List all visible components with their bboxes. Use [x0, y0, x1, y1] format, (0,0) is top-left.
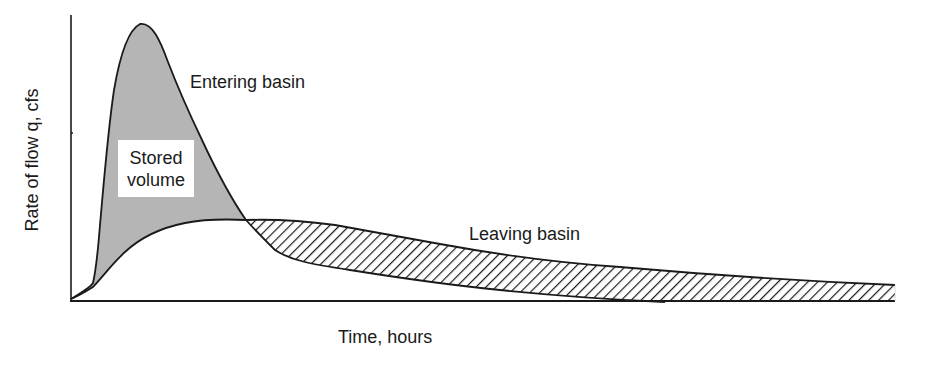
stored-volume-label-line2: volume: [127, 169, 185, 191]
y-axis-label: Rate of flow q, cfs: [22, 88, 43, 231]
x-axis-label: Time, hours: [338, 328, 432, 346]
stored-volume-label: Stored volume: [118, 140, 194, 197]
inflow-label: Entering basin: [190, 73, 305, 91]
outflow-label: Leaving basin: [469, 225, 580, 243]
stored-volume-label-line1: Stored: [129, 147, 182, 169]
